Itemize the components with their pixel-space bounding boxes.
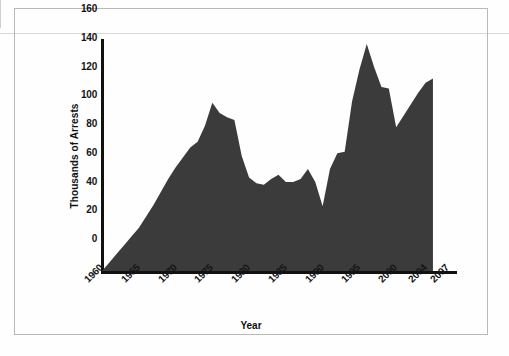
y-tick-label: 0 xyxy=(92,233,97,244)
y-tick-label: 100 xyxy=(81,89,97,100)
chart-figure: Thousands of Arrests 0204060801001201401… xyxy=(14,8,488,335)
page-background: Thousands of Arrests 0204060801001201401… xyxy=(0,0,509,356)
x-axis-tick-labels: 1960196519701975198019851990199520002004… xyxy=(14,277,488,323)
y-tick-label: 120 xyxy=(81,60,97,71)
area-series xyxy=(102,41,455,271)
scan-artifact-left-edge xyxy=(0,0,1,28)
y-tick-label: 20 xyxy=(86,204,97,215)
y-axis-title-holder: Thousands of Arrests xyxy=(48,41,68,271)
y-tick-label: 80 xyxy=(86,118,97,129)
y-tick-label: 160 xyxy=(81,3,97,14)
plot-area xyxy=(102,41,455,271)
y-tick-label: 60 xyxy=(86,146,97,157)
x-axis-title: Year xyxy=(14,320,488,331)
y-tick-label: 40 xyxy=(86,175,97,186)
y-tick-label: 140 xyxy=(81,31,97,42)
